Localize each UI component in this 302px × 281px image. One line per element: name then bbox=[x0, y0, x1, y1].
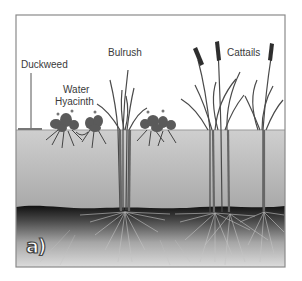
label-water-hyacinth-line1: Water bbox=[63, 84, 89, 95]
duckweed-surface bbox=[18, 128, 42, 130]
label-cattails: Cattails bbox=[227, 47, 260, 58]
water-layer bbox=[16, 130, 285, 210]
label-water-hyacinth-line2: Hyacinth bbox=[55, 96, 94, 107]
label-duckweed: Duckweed bbox=[21, 59, 68, 70]
wetland-plants-diagram: Duckweed Water Hyacinth Bulrush Cattails… bbox=[0, 0, 302, 281]
label-bulrush: Bulrush bbox=[108, 47, 142, 58]
panel-label: a) bbox=[26, 236, 46, 256]
